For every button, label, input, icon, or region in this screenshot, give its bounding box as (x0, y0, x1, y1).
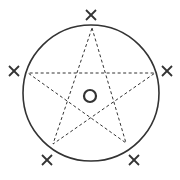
center-ring-icon (84, 90, 96, 102)
x-mark-left-icon (9, 66, 19, 76)
x-mark-bottom-left-icon (42, 155, 52, 165)
outer-circle (23, 25, 159, 161)
star-circle-diagram (0, 0, 180, 180)
x-mark-bottom-right-icon (129, 155, 139, 165)
x-mark-top-icon (86, 10, 96, 20)
x-marks (9, 10, 172, 165)
x-mark-right-icon (162, 66, 172, 76)
dashed-star (28, 28, 155, 144)
